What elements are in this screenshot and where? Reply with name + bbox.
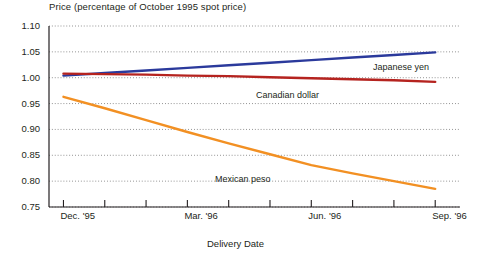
y-tick-label: 0.85 [6,149,40,160]
x-tick-label: Jun. '96 [308,210,341,221]
x-axis-title: Delivery Date [207,238,264,249]
y-tick-label: 1.00 [6,72,40,83]
x-tick-label: Mar. '96 [184,210,218,221]
plot-area [0,0,478,262]
series-label-japanese-yen: Japanese yen [373,62,429,72]
series-label-canadian-dollar: Canadian dollar [256,90,319,100]
series-label-mexican-peso: Mexican peso [215,174,271,184]
series-lines [63,52,435,189]
y-tick-label: 1.10 [6,20,40,31]
x-tick-marks [63,200,435,207]
y-tick-label: 0.80 [6,175,40,186]
x-tick-label: Sep. '96 [432,210,467,221]
x-tick-label: Dec. '95 [60,210,95,221]
forward-price-chart: Price (percentage of October 1995 spot p… [0,0,478,262]
y-tick-label: 1.05 [6,46,40,57]
y-tick-label: 0.95 [6,98,40,109]
y-tick-label: 0.75 [6,201,40,212]
y-tick-label: 0.90 [6,123,40,134]
